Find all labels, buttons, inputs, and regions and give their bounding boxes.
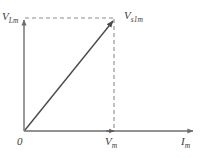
y-axis-label-symbol: V	[2, 10, 9, 22]
vector-vs1m-line	[25, 21, 113, 130]
vector-tip-label-symbol: V	[124, 9, 131, 21]
phasor-magnitude-diagram: VLm Vs1m Vm Im 0	[0, 0, 202, 158]
x-axis-label: Im	[181, 136, 190, 147]
origin-label: 0	[17, 136, 23, 147]
x-marker-label: Vm	[105, 136, 117, 147]
vector-tip-label-subscript: s1m	[131, 15, 143, 24]
x-marker-label-symbol: V	[105, 135, 112, 147]
y-axis-label: VLm	[2, 11, 18, 22]
y-axis-label-subscript: Lm	[9, 16, 19, 25]
figure-canvas	[0, 0, 202, 158]
vector-tip-label: Vs1m	[124, 10, 143, 21]
x-axis-label-subscript: m	[185, 141, 190, 150]
x-marker-label-subscript: m	[112, 141, 117, 150]
